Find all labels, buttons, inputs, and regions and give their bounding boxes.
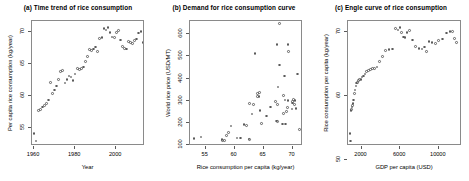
x-axis-tick-label: 2000 [109, 151, 121, 157]
panel-engle-curve: (c) Engle curve of rice consumption 2000… [313, 0, 469, 181]
data-point [66, 78, 69, 81]
data-point [414, 45, 417, 48]
data-point [51, 92, 54, 95]
y-axis-title: Per capita rice consumption (kg/year) [7, 20, 14, 145]
data-point [107, 26, 110, 29]
y-axis-tick-label: 600 [177, 29, 183, 38]
y-axis-tick [186, 78, 189, 79]
data-point [434, 42, 437, 45]
y-axis-tick [344, 95, 347, 96]
data-point [45, 102, 48, 105]
x-axis-tick-label: 10000 [430, 151, 446, 157]
data-point [282, 112, 285, 115]
x-axis-tick [361, 146, 362, 149]
data-point [378, 60, 381, 63]
data-point [252, 103, 255, 106]
panel-b-title: (b) Demand for rice consumption curve [156, 4, 312, 12]
y-axis-tick [28, 31, 31, 32]
x-axis-tick [205, 146, 206, 149]
x-axis-tick [115, 146, 116, 149]
x-axis-tick [399, 146, 400, 149]
y-axis-tick-label: 70 [335, 28, 341, 34]
x-axis-tick-label: 70 [288, 151, 294, 157]
data-point [117, 29, 120, 32]
x-axis-tick [292, 146, 293, 149]
data-point [131, 42, 134, 45]
data-point [391, 48, 394, 51]
data-point [451, 30, 454, 33]
data-point [223, 139, 226, 142]
data-point [431, 41, 434, 44]
data-point [119, 39, 122, 42]
x-axis-title: Year [82, 164, 94, 171]
y-axis-tick-label: 300 [177, 95, 183, 104]
y-axis-tick-label: 400 [177, 73, 183, 82]
x-axis-title: GDP per capita (USD) [375, 164, 432, 171]
data-point [227, 131, 230, 134]
data-point [441, 38, 444, 41]
y-axis-tick-label: 55 [19, 124, 25, 130]
data-point [353, 92, 356, 95]
data-point [408, 29, 411, 32]
data-point [388, 48, 391, 51]
y-axis-tick [28, 127, 31, 128]
x-axis-tick-label: 2000 [354, 151, 366, 157]
panel-c-plot-area [347, 20, 461, 145]
data-point [230, 125, 233, 128]
panel-c-title: (c) Engle curve of rice consumption [313, 4, 469, 12]
data-point [283, 75, 286, 78]
data-point [258, 95, 261, 98]
data-point [248, 138, 251, 141]
data-point [278, 64, 281, 67]
x-axis-tick-label: 65 [259, 151, 265, 157]
data-point [101, 36, 104, 39]
data-point [453, 37, 456, 40]
y-axis-tick-label: 70 [19, 28, 25, 34]
data-point [135, 38, 138, 41]
data-point [423, 46, 426, 49]
data-point [276, 120, 279, 123]
data-point [376, 66, 379, 69]
y-axis-tick-label: 60 [19, 92, 25, 98]
data-point [291, 108, 294, 111]
data-point [200, 136, 203, 139]
data-point [354, 89, 357, 92]
data-point [47, 99, 50, 102]
data-point [282, 94, 285, 97]
y-axis-title: World rice price (USD/MT) [165, 20, 172, 145]
data-point [381, 55, 384, 58]
y-axis-tick-label: 500 [177, 51, 183, 60]
data-point [296, 73, 299, 76]
data-point [109, 31, 112, 34]
y-axis-tick-label: 50 [335, 156, 341, 162]
data-point [55, 85, 58, 88]
data-point [64, 82, 67, 85]
data-point [254, 52, 257, 55]
data-point [293, 103, 296, 106]
data-point [400, 31, 403, 34]
data-point [259, 109, 262, 112]
data-point [286, 106, 289, 109]
x-axis-tick-label: 6000 [393, 151, 405, 157]
y-axis-tick [186, 122, 189, 123]
x-axis-tick [263, 146, 264, 149]
data-point [74, 73, 77, 76]
panel-time-trend: (a) Time trend of rice consumption 19601… [0, 0, 156, 181]
data-point [295, 107, 298, 110]
data-point [239, 137, 242, 140]
data-point [92, 48, 95, 51]
y-axis-tick [186, 33, 189, 34]
data-point [61, 69, 64, 72]
data-point [278, 22, 281, 25]
data-point [287, 50, 290, 53]
panel-demand-curve: (b) Demand for rice consumption curve 55… [156, 0, 312, 181]
x-axis-tick-label: 1960 [27, 151, 39, 157]
x-axis-tick-label: 55 [202, 151, 208, 157]
data-point [421, 48, 424, 51]
x-axis-tick [234, 146, 235, 149]
y-axis-tick-label: 60 [335, 92, 341, 98]
data-point [105, 29, 108, 32]
data-point [248, 102, 251, 105]
rice-consumption-figure: (a) Time trend of rice consumption 19601… [0, 0, 469, 181]
data-point [258, 91, 261, 94]
